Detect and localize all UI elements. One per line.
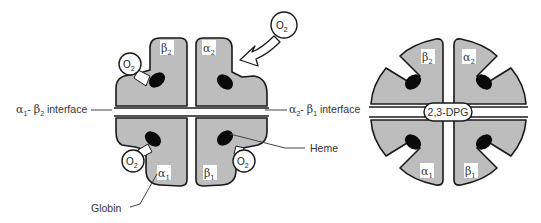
globin-label: Globin <box>91 202 122 214</box>
binding-arrow-icon <box>240 36 280 66</box>
dpg-label: 2,3-DPG <box>428 106 469 118</box>
hemoglobin-diagram: O2 O2 O2 O2 β2 α2 α1 β1 α1- β2 interface… <box>0 0 541 223</box>
incoming-oxygen-icon <box>271 12 297 38</box>
alpha2-beta1-interface-label: α2- β1 interface <box>289 103 360 117</box>
annotations: α1- β2 interface α2- β1 interface Heme G… <box>16 103 360 214</box>
right-tetramer: 2,3-DPG β2 α2 α1 β1 <box>369 39 528 185</box>
alpha1-beta2-interface-label: α1- β2 interface <box>16 103 87 117</box>
subunit-alpha2-right <box>454 39 526 104</box>
heme-label: Heme <box>310 142 338 154</box>
left-tetramer: O2 O2 O2 O2 β2 α2 α1 β1 <box>114 12 297 186</box>
subunit-beta2-right <box>371 39 443 104</box>
